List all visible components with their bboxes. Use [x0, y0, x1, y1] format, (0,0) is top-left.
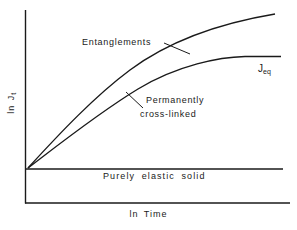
- annotation-permanently-line1: Permanently: [146, 96, 204, 106]
- annotation-entanglements: Entanglements: [82, 38, 151, 48]
- leader-line-permanently-cross-linked: [126, 92, 143, 108]
- x-axis-label: ln Time: [0, 210, 297, 220]
- curve-entanglements: [28, 14, 275, 168]
- leader-line-entanglements: [164, 43, 190, 54]
- annotation-jeq: Jeq: [258, 63, 271, 76]
- jeq-subscript: eq: [263, 68, 271, 75]
- y-axis-label: ln Jt: [7, 78, 18, 128]
- y-axis-label-subscript: t: [10, 93, 17, 95]
- annotation-purely-elastic-solid: Purely elastic solid: [103, 172, 206, 182]
- creep-compliance-chart: Entanglements Permanently cross-linked P…: [0, 0, 297, 230]
- y-axis-label-text: ln J: [6, 95, 16, 114]
- annotation-permanently-line2: cross-linked: [140, 110, 196, 120]
